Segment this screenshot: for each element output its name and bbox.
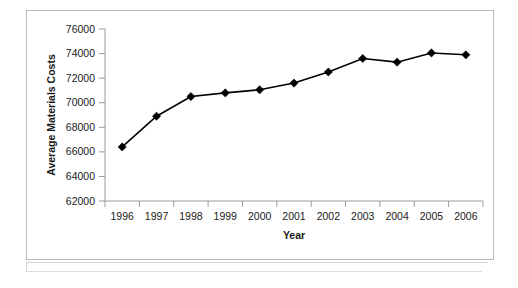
y-tick-label: 62000 xyxy=(66,195,95,207)
y-tick-label: 76000 xyxy=(66,23,95,35)
y-axis-ticks xyxy=(99,29,105,201)
x-tick-label: 2005 xyxy=(420,210,444,222)
line-chart: 62000 64000 66000 68000 70000 72000 7400… xyxy=(27,11,495,261)
x-tick-label: 1996 xyxy=(111,210,135,222)
page-shadow-line-secondary xyxy=(26,271,482,272)
x-axis-ticks xyxy=(105,201,483,207)
y-tick-label: 66000 xyxy=(66,145,95,157)
x-tick-label: 1999 xyxy=(214,210,238,222)
x-tick-label: 1998 xyxy=(179,210,203,222)
y-tick-label: 64000 xyxy=(66,170,95,182)
page-shadow-left xyxy=(26,262,27,272)
y-tick-label: 70000 xyxy=(66,96,95,108)
chart-canvas: 62000 64000 66000 68000 70000 72000 7400… xyxy=(27,11,495,261)
x-tick-label: 2000 xyxy=(248,210,272,222)
x-tick-label: 2003 xyxy=(351,210,375,222)
x-axis-tick-labels: 1996 1997 1998 1999 2000 2001 2002 2003 … xyxy=(111,210,478,222)
figure-frame: 62000 64000 66000 68000 70000 72000 7400… xyxy=(26,10,494,260)
x-tick-label: 2006 xyxy=(454,210,478,222)
x-tick-label: 2004 xyxy=(385,210,409,222)
y-tick-label: 68000 xyxy=(66,121,95,133)
x-tick-label: 2002 xyxy=(317,210,341,222)
y-axis-tick-labels: 62000 64000 66000 68000 70000 72000 7400… xyxy=(66,23,95,207)
x-tick-label: 1997 xyxy=(145,210,169,222)
x-tick-label: 2001 xyxy=(282,210,306,222)
y-tick-label: 72000 xyxy=(66,72,95,84)
x-axis-title: Year xyxy=(283,229,305,241)
page-shadow-line xyxy=(26,262,488,263)
y-axis-title: Average Materials Costs xyxy=(45,54,57,176)
y-tick-label: 74000 xyxy=(66,47,95,59)
